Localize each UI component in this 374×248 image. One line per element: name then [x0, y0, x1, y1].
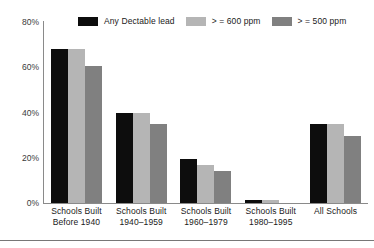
bar	[310, 124, 327, 203]
category-label-line: 1980–1995	[238, 217, 303, 228]
bar-group	[44, 22, 109, 203]
bar	[214, 171, 231, 203]
category-label-line: Schools Built	[174, 206, 239, 217]
category-label-line: 1940–1959	[109, 217, 174, 228]
y-axis-tick-label: 20%	[0, 153, 39, 163]
category-label: Schools Built1980–1995	[238, 206, 303, 228]
bar	[150, 124, 167, 203]
category-label: Schools BuiltBefore 1940	[44, 206, 109, 228]
category-label: Schools Built1940–1959	[109, 206, 174, 228]
category-label-line: Before 1940	[44, 217, 109, 228]
bar	[51, 49, 68, 203]
bar-groups	[44, 22, 368, 203]
y-axis-tick-label: 80%	[0, 17, 39, 27]
y-axis-tick-label: 40%	[0, 108, 39, 118]
bar	[344, 136, 361, 203]
footer-divider	[0, 240, 374, 241]
bar-group	[174, 22, 239, 203]
bar	[85, 66, 102, 203]
y-axis-tick-label: 60%	[0, 62, 39, 72]
category-label-line: Schools Built	[238, 206, 303, 217]
y-axis-tick-label: 0%	[0, 198, 39, 208]
bar	[116, 113, 133, 204]
bar	[197, 165, 214, 203]
bar-group	[303, 22, 368, 203]
category-label-line: Schools Built	[44, 206, 109, 217]
y-axis-tick-labels: 80%60%40%20%0%	[0, 0, 39, 248]
bar	[262, 200, 279, 203]
category-label: Schools Built1960–1979	[174, 206, 239, 228]
bar	[133, 113, 150, 204]
category-label-line: 1960–1979	[174, 217, 239, 228]
bar	[327, 124, 344, 203]
bar-chart: Any Dectable lead> = 600 ppm> = 500 ppm …	[0, 0, 374, 248]
category-label-line: Schools Built	[109, 206, 174, 217]
bar	[68, 49, 85, 203]
bar-group	[238, 22, 303, 203]
x-axis-category-labels: Schools BuiltBefore 1940Schools Built194…	[44, 206, 368, 228]
category-label-line: All Schools	[303, 206, 368, 217]
bar	[245, 200, 262, 203]
bar-group	[109, 22, 174, 203]
bar	[180, 159, 197, 203]
category-label: All Schools	[303, 206, 368, 228]
x-axis-line	[43, 203, 368, 204]
